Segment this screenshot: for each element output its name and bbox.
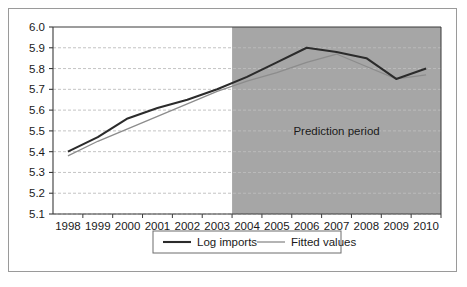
y-axis-tick-label: 6.0	[29, 21, 45, 33]
x-axis-tick-label: 2005	[264, 220, 290, 232]
y-axis-tick-label: 5.7	[29, 83, 45, 95]
figure-canvas: 6.05.95.85.75.65.55.45.35.25.1 199819992…	[0, 0, 467, 287]
y-axis-tick-label: 5.5	[29, 125, 45, 137]
x-axis-tick-label: 2010	[413, 220, 439, 232]
x-axis-tick-label: 2002	[175, 220, 201, 232]
x-axis-tick-label: 1998	[55, 220, 81, 232]
x-axis-tick-label: 2003	[204, 220, 230, 232]
y-axis-tick-label: 5.2	[29, 187, 45, 199]
x-axis-tick-label: 1999	[85, 220, 111, 232]
legend-label-fitted-values[interactable]: Fitted values	[291, 236, 356, 248]
y-axis-tick-label: 5.6	[29, 104, 45, 116]
prediction-period-annotation: Prediction period	[293, 125, 379, 137]
y-axis-tick-label: 5.9	[29, 42, 45, 54]
x-axis-tick-label: 2004	[234, 220, 260, 232]
prediction-period-shading	[232, 27, 441, 214]
chart-legend[interactable]: Log imports Fitted values	[153, 231, 356, 253]
y-axis-tick-label: 5.3	[29, 166, 45, 178]
legend-label-log-imports[interactable]: Log imports	[197, 236, 257, 248]
y-axis-tick-label: 5.8	[29, 63, 45, 75]
chart-outer-frame: 6.05.95.85.75.65.55.45.35.25.1 199819992…	[8, 8, 457, 272]
x-axis-tick-label: 2000	[115, 220, 141, 232]
y-axis-ticks: 6.05.95.85.75.65.55.45.35.25.1	[29, 21, 53, 220]
y-axis-tick-label: 5.4	[29, 146, 46, 158]
x-axis-tick-label: 2006	[294, 220, 320, 232]
x-axis-tick-label: 2007	[324, 220, 350, 232]
x-axis-tick-label: 2001	[145, 220, 171, 232]
line-chart[interactable]: 6.05.95.85.75.65.55.45.35.25.1 199819992…	[9, 9, 456, 271]
y-axis-tick-label: 5.1	[29, 208, 45, 220]
x-axis-ticks: 1998199920002001200220032004200520062007…	[55, 214, 441, 232]
x-axis-tick-label: 2009	[383, 220, 409, 232]
x-axis-tick-label: 2008	[354, 220, 380, 232]
